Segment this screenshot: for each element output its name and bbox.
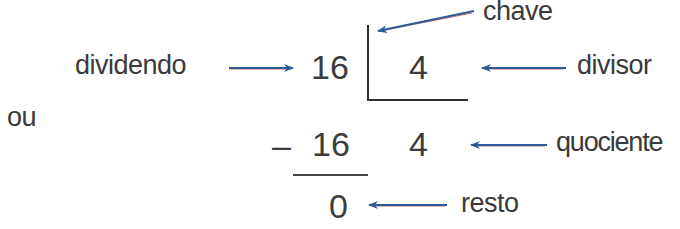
dividend-arrow-icon [229,68,293,69]
label-key: chave [483,0,553,25]
key-horizontal-line [367,99,468,101]
dividend-value: 16 [311,50,349,84]
subtracted-value: 16 [312,127,350,161]
remainder-value: 0 [329,189,348,223]
quotient-arrow-icon [471,145,547,146]
division-diagram: dividendo chave divisor quociente resto … [0,0,680,229]
key-vertical-line [367,25,369,101]
key-arrow-icon [378,11,474,31]
divisor-value: 4 [409,50,428,84]
divisor-arrow-icon [482,68,566,69]
quotient-value: 4 [409,127,428,161]
remainder-arrow-icon [369,205,447,206]
connector-word: ou [7,104,36,131]
label-divisor: divisor [577,52,652,79]
label-remainder: resto [461,190,519,217]
subtraction-line [293,174,368,176]
label-dividend: dividendo [75,52,186,79]
minus-sign: – [272,128,291,162]
label-quotient: quociente [556,129,662,156]
